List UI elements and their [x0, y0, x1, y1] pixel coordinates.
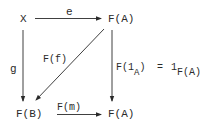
node-fa-bottom: F(A): [108, 108, 134, 120]
label-equals: =: [157, 62, 163, 73]
label-e: e: [66, 6, 73, 18]
label-identity-sub: F(A): [177, 67, 201, 78]
node-x: X: [20, 13, 27, 25]
label-g: g: [10, 63, 17, 75]
commutative-diagram: X F(A) F(B) F(A) e g F(f) F(m) F(1A) = 1…: [0, 0, 216, 127]
label-f1a-main: F(1: [116, 62, 134, 73]
node-fa-top: F(A): [108, 13, 134, 25]
label-identity: 1F(A): [171, 62, 201, 78]
label-ff: F(f): [43, 54, 67, 65]
node-fb: F(B): [16, 108, 42, 120]
label-f1a: F(1A): [116, 62, 145, 78]
label-f1a-close: ): [139, 62, 145, 73]
label-fm: F(m): [57, 102, 81, 113]
